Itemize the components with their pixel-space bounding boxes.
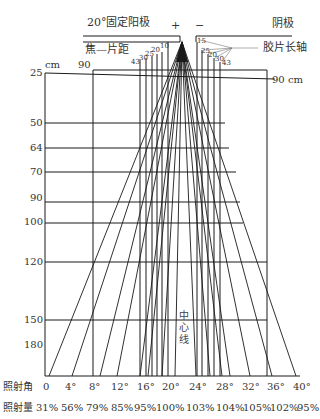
distance-row-label: 100 bbox=[24, 217, 43, 227]
film-25-top bbox=[45, 73, 275, 79]
focus-film-distance-label: 焦—片距 bbox=[85, 44, 129, 55]
angle-value: 4° bbox=[65, 382, 76, 392]
distance-row-label: 150 bbox=[24, 315, 43, 325]
cm-unit-label: cm bbox=[45, 60, 60, 70]
angle-value: 32° bbox=[242, 382, 260, 392]
intensity-value: 103% bbox=[186, 403, 215, 413]
film-size-label: 10 bbox=[160, 43, 169, 50]
angle-value: 36° bbox=[267, 382, 285, 392]
angle-row-label: 照射角 bbox=[3, 382, 33, 392]
intensity-value: 56% bbox=[61, 403, 83, 413]
intensity-value: 104% bbox=[216, 403, 245, 413]
intensity-row-label: 照射量 bbox=[3, 403, 33, 413]
intensity-value: 95% bbox=[134, 403, 156, 413]
intensity-value: 100% bbox=[156, 403, 185, 413]
angle-value: 40° bbox=[293, 382, 311, 392]
intensity-value: 105% bbox=[243, 403, 272, 413]
distance-row-label: 90 bbox=[30, 193, 43, 203]
distance-row-label: 25 bbox=[30, 68, 43, 78]
angle-value: 8° bbox=[89, 382, 100, 392]
distance-row-label: 64 bbox=[30, 143, 43, 153]
intensity-value: 85% bbox=[111, 403, 133, 413]
angle-value: 12° bbox=[111, 382, 129, 392]
distance-90cm-label: 90 cm bbox=[272, 75, 303, 85]
angle-value: 0 bbox=[43, 382, 49, 392]
center-line-label: 中 心 线 bbox=[178, 310, 190, 346]
intensity-value: 31% bbox=[36, 403, 58, 413]
film-long-axis-label: 胶片长轴 bbox=[263, 42, 307, 53]
angle-value: 16° bbox=[137, 382, 155, 392]
intensity-value: 102% bbox=[270, 403, 299, 413]
angle-value: 24° bbox=[189, 382, 207, 392]
distance-90-label: 90 bbox=[78, 60, 91, 70]
angle-value: 28° bbox=[216, 382, 234, 392]
intensity-value: 95% bbox=[297, 403, 319, 413]
intensity-value: 79% bbox=[86, 403, 108, 413]
film-size-label: 20 bbox=[151, 47, 160, 54]
distance-row-label: 180 bbox=[24, 340, 43, 350]
angle-value: 20° bbox=[162, 382, 180, 392]
distance-row-label: 50 bbox=[30, 118, 43, 128]
plus-sign: + bbox=[171, 20, 180, 31]
minus-sign: − bbox=[195, 20, 204, 31]
cathode-label: 阴极 bbox=[272, 18, 294, 29]
film-size-label: 43 bbox=[222, 60, 231, 67]
anode-label: 20°固定阳极 bbox=[87, 17, 151, 28]
distance-row-label: 70 bbox=[30, 167, 43, 177]
distance-row-label: 120 bbox=[24, 257, 43, 267]
film-size-label: 15 bbox=[197, 38, 206, 45]
